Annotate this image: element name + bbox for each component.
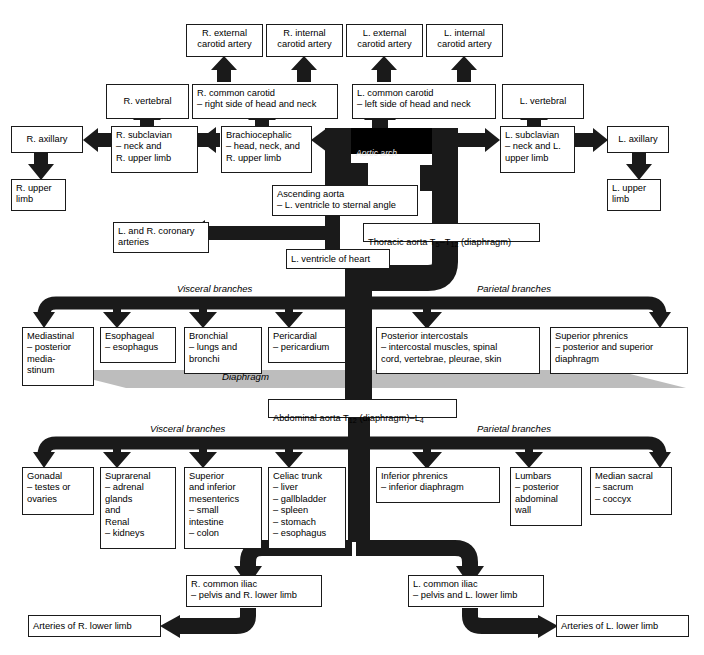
abdominal-aorta-text: Abdominal aorta T12 (diaphragm)–L4	[273, 413, 424, 423]
thoracic-aorta-text: Thoracic aorta T5–T12 (diaphragm)	[368, 237, 511, 247]
box-r-internal-carotid-artery[interactable]: R. internal carotid artery	[266, 24, 343, 57]
box-l-external-carotid-artery[interactable]: L. external carotid artery	[346, 24, 423, 57]
box-lumbars[interactable]: Lumbars – posterior abdominal wall	[510, 467, 582, 526]
box-l-internal-carotid-artery[interactable]: L. internal carotid artery	[426, 24, 503, 57]
arrow-r-common-carotid-to-r-internal-carotid	[291, 56, 317, 82]
box-inferior-phrenics[interactable]: Inferior phrenics – inferior diaphragm	[376, 467, 500, 503]
arrow-r-common-carotid-to-r-external-carotid	[211, 56, 237, 82]
label-visceral-branches-abdominal: Visceral branches	[150, 423, 225, 434]
arrow-l-common-carotid-to-l-external-carotid	[371, 56, 397, 82]
label-parietal-branches-thoracic: Parietal branches	[477, 283, 551, 294]
box-r-subclavian[interactable]: R. subclavian – neck and R. upper limb	[111, 126, 198, 173]
box-r-vertebral[interactable]: R. vertebral	[106, 84, 189, 119]
box-coronary-arteries[interactable]: L. and R. coronary arteries	[113, 222, 209, 253]
box-arteries-of-r-lower-limb[interactable]: Arteries of R. lower limb	[28, 615, 161, 637]
box-l-common-carotid[interactable]: L. common carotid – left side of head an…	[352, 84, 496, 119]
box-l-common-iliac[interactable]: L. common iliac – pelvis and L. lower li…	[408, 575, 544, 607]
box-l-ventricle-of-heart[interactable]: L. ventricle of heart	[286, 249, 390, 269]
box-l-vertebral[interactable]: L. vertebral	[502, 84, 584, 119]
box-mediastinal[interactable]: Mediastinal – posterior media- stinum	[22, 327, 94, 386]
box-abdominal-aorta[interactable]: Abdominal aorta T12 (diaphragm)–L4	[268, 399, 457, 418]
thoracic-branch-bus	[33, 303, 671, 329]
label-aortic-arch: Aortic arch	[356, 148, 397, 158]
box-ascending-aorta[interactable]: Ascending aorta – L. ventricle to sterna…	[272, 185, 418, 216]
arrow-l-subclavian-to-l-axillary	[575, 128, 608, 152]
box-l-upper-limb[interactable]: L. upper limb	[607, 179, 661, 211]
arrow-arch-to-brachiocephalic	[311, 128, 357, 152]
box-pericardial[interactable]: Pericardial – pericardium	[268, 327, 346, 363]
box-gonadal[interactable]: Gonadal – testes or ovaries	[22, 467, 94, 515]
label-visceral-branches-thoracic: Visceral branches	[177, 283, 252, 294]
arrow-r-common-iliac-to-r-lower-limb-arteries	[160, 608, 248, 638]
box-r-axillary[interactable]: R. axillary	[11, 126, 83, 153]
box-celiac-trunk[interactable]: Celiac trunk – liver – gallbladder – spl…	[268, 467, 346, 549]
box-thoracic-aorta[interactable]: Thoracic aorta T5–T12 (diaphragm)	[363, 223, 540, 242]
box-suprarenal-renal[interactable]: Suprarenal – adrenal glands and Renal – …	[100, 467, 176, 549]
box-posterior-intercostals[interactable]: Posterior intercostals – intercostal mus…	[376, 327, 540, 374]
box-l-axillary[interactable]: L. axillary	[607, 126, 669, 153]
arrow-l-common-iliac-to-l-lower-limb-arteries	[470, 608, 558, 638]
box-bronchial[interactable]: Bronchial – lungs and bronchi	[184, 327, 262, 374]
box-brachiocephalic[interactable]: Brachiocephalic – head, neck, and R. upp…	[221, 126, 312, 173]
label-parietal-branches-abdominal: Parietal branches	[477, 423, 551, 434]
box-median-sacral[interactable]: Median sacral – sacrum – coccyx	[590, 467, 672, 515]
box-r-common-carotid[interactable]: R. common carotid – right side of head a…	[192, 84, 338, 119]
box-superior-inferior-mesenterics[interactable]: Superior and inferior mesenterics – smal…	[184, 467, 262, 549]
arrow-l-common-carotid-to-l-internal-carotid	[451, 56, 477, 82]
box-esophageal[interactable]: Esophageal – esophagus	[100, 327, 176, 363]
box-r-common-iliac[interactable]: R. common iliac – pelvis and R. lower li…	[186, 575, 322, 607]
aorta-branches-diagram: .v { fill:#1a1a1a; stroke:none; } .vs { …	[0, 0, 704, 655]
box-superior-phrenics[interactable]: Superior phrenics – posterior and superi…	[550, 327, 688, 374]
box-l-subclavian[interactable]: L. subclavian – neck and L. upper limb	[500, 126, 575, 173]
box-r-external-carotid-artery[interactable]: R. external carotid artery	[186, 24, 263, 57]
arrow-arch-to-l-subclavian	[400, 128, 500, 152]
arrow-r-axillary-to-r-upper-limb	[28, 153, 54, 180]
label-diaphragm: Diaphragm	[222, 371, 269, 382]
arrow-ascending-aorta-to-coronary-arteries	[188, 220, 333, 247]
arrow-l-axillary-to-l-upper-limb	[626, 153, 652, 180]
box-arteries-of-l-lower-limb[interactable]: Arteries of L. lower limb	[556, 615, 689, 637]
box-r-upper-limb[interactable]: R. upper limb	[11, 179, 66, 211]
abdominal-branch-bus	[33, 443, 671, 469]
